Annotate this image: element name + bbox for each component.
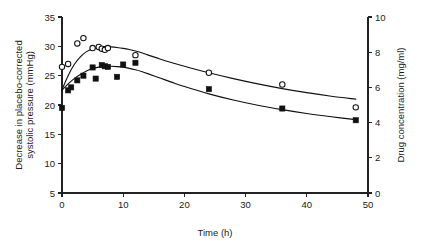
data-point-open-circle <box>59 64 64 69</box>
y2-tick-label: 4 <box>375 117 380 128</box>
data-point-open-circle <box>81 35 86 40</box>
y2-axis-title: Drug concentration (mg/ml) <box>395 47 406 162</box>
y-tick-label: 25 <box>44 70 55 81</box>
data-point-open-circle <box>65 61 70 66</box>
y-tick-label: 30 <box>44 41 55 52</box>
data-point-open-circle <box>75 41 80 46</box>
data-point-filled-square <box>105 64 110 69</box>
y-axis-title-line1: Decrease in placebo-corrected <box>13 40 24 169</box>
fit-curves-group <box>62 47 356 120</box>
y2-tick-label: 8 <box>375 47 380 58</box>
y-tick-label: 35 <box>44 12 55 23</box>
axes-group <box>58 17 372 197</box>
data-point-open-circle <box>206 70 211 75</box>
x-tick-label: 20 <box>179 199 190 210</box>
data-point-filled-square <box>280 106 285 111</box>
data-point-filled-square <box>121 62 126 67</box>
data-point-open-circle <box>280 82 285 87</box>
data-point-filled-square <box>75 78 80 83</box>
y2-tick-label: 2 <box>375 152 380 163</box>
data-point-filled-square <box>59 105 64 110</box>
axis-spines <box>62 17 368 193</box>
data-point-filled-square <box>93 76 98 81</box>
data-point-open-circle <box>353 105 358 110</box>
x-tick-label: 10 <box>118 199 129 210</box>
data-point-open-circle <box>133 52 138 57</box>
data-point-open-circle <box>90 45 95 50</box>
data-point-filled-square <box>90 65 95 70</box>
y-tick-label: 20 <box>44 100 55 111</box>
x-tick-label: 30 <box>240 199 251 210</box>
y2-tick-label: 10 <box>375 12 386 23</box>
x-tick-label: 40 <box>302 199 313 210</box>
data-point-filled-square <box>69 85 74 90</box>
data-point-open-circle <box>105 45 110 50</box>
y-tick-label: 5 <box>50 188 55 199</box>
chart-plot-area: 0102030405051015202530350246810Time (h)D… <box>0 0 422 243</box>
y-axis-title-line2: systolic pressure (mmHg) <box>24 51 35 159</box>
y-tick-label: 15 <box>44 129 55 140</box>
chart-figure: 0102030405051015202530350246810Time (h)D… <box>0 0 422 243</box>
x-tick-label: 0 <box>59 199 64 210</box>
x-tick-label: 50 <box>363 199 374 210</box>
y2-tick-label: 0 <box>375 188 380 199</box>
data-points-group <box>59 35 358 122</box>
data-point-filled-square <box>81 73 86 78</box>
data-point-filled-square <box>133 60 138 65</box>
axis-labels-group: 0102030405051015202530350246810Time (h)D… <box>13 12 406 239</box>
data-point-filled-square <box>206 87 211 92</box>
data-point-filled-square <box>114 74 119 79</box>
x-axis-title: Time (h) <box>197 227 232 238</box>
data-point-filled-square <box>353 118 358 123</box>
y-tick-label: 10 <box>44 158 55 169</box>
y2-tick-label: 6 <box>375 82 380 93</box>
